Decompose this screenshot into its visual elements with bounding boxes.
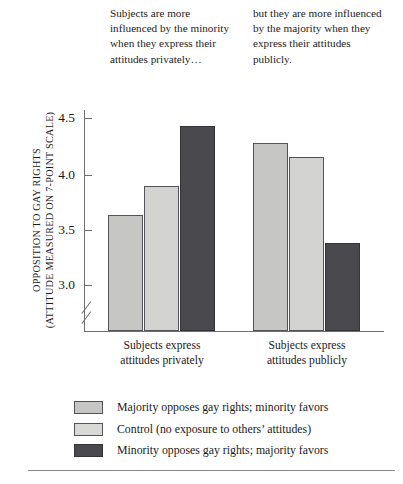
annotation-left: Subjects are more influenced by the mino…	[110, 6, 240, 67]
group-label-private: Subjects express attitudes privately	[92, 338, 232, 369]
y-axis-line	[84, 110, 85, 332]
y-axis-title: OPPOSITION TO GAY RIGHTS (ATTITUDE MEASU…	[26, 90, 60, 350]
x-axis-line	[84, 331, 384, 332]
bottom-divider	[28, 470, 395, 471]
legend-swatch-majority-opposes	[74, 401, 103, 414]
chart-plot-area: 4.5 4.0 3.5 3.0 Subjects express attitud…	[84, 110, 384, 332]
bar-private-minority-opposes	[180, 126, 215, 331]
legend-label-control: Control (no exposure to others’ attitude…	[117, 422, 311, 437]
group-label-public-line2: attitudes publicly	[237, 353, 377, 368]
group-label-public: Subjects express attitudes publicly	[237, 338, 377, 369]
group-label-private-line2: attitudes privately	[92, 353, 232, 368]
y-tick-label-4-0: 4.0	[58, 167, 75, 183]
y-tick-label-4-5: 4.5	[58, 110, 75, 126]
legend-item-control: Control (no exposure to others’ attitude…	[74, 419, 328, 441]
annotation-right: but they are more influenced by the majo…	[253, 6, 383, 67]
legend-label-majority-opposes: Majority opposes gay rights; minority fa…	[117, 400, 328, 415]
bar-public-minority-opposes	[325, 243, 360, 331]
legend-item-minority-opposes: Minority opposes gay rights; majority fa…	[74, 440, 328, 462]
group-label-private-line1: Subjects express	[92, 338, 232, 353]
legend-item-majority-opposes: Majority opposes gay rights; minority fa…	[74, 397, 328, 419]
bar-private-majority-opposes	[108, 215, 143, 331]
bar-public-majority-opposes	[253, 143, 288, 331]
legend-swatch-control	[74, 423, 103, 436]
y-tick-label-3-5: 3.5	[58, 222, 75, 238]
bar-private-control	[144, 186, 179, 331]
chart-legend: Majority opposes gay rights; minority fa…	[74, 397, 328, 462]
group-label-public-line1: Subjects express	[237, 338, 377, 353]
y-axis-title-line1: OPPOSITION TO GAY RIGHTS	[30, 148, 43, 292]
y-tick-label-3-0: 3.0	[58, 277, 75, 293]
bar-public-control	[289, 157, 324, 331]
legend-label-minority-opposes: Minority opposes gay rights; majority fa…	[117, 443, 328, 458]
y-axis-title-line2: (ATTITUDE MEASURED ON 7-POINT SCALE)	[43, 112, 56, 329]
legend-swatch-minority-opposes	[74, 444, 103, 457]
